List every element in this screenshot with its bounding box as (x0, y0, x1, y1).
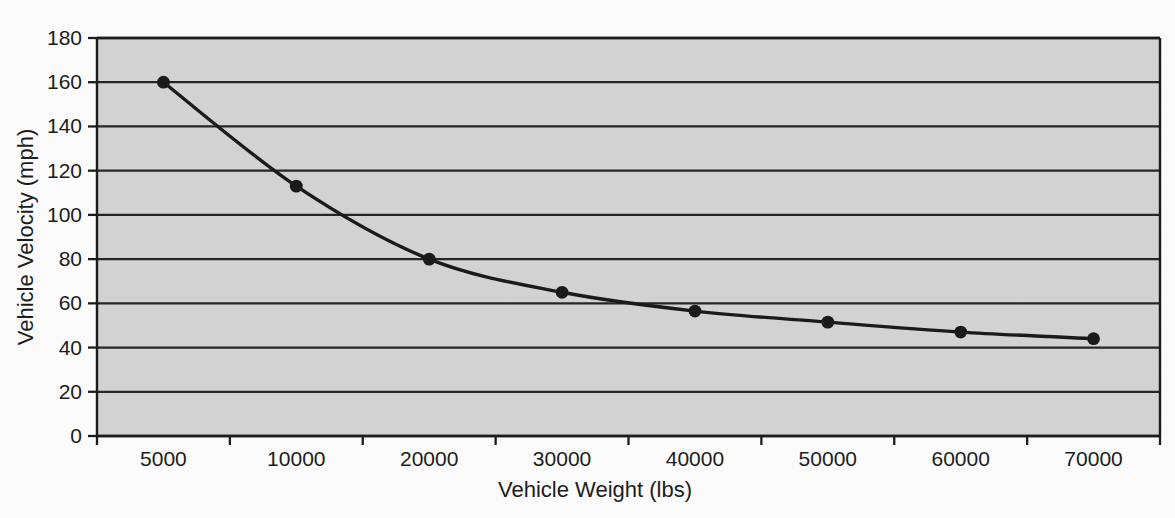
x-axis-tick-label: 60000 (931, 447, 989, 470)
chart-figure: 020406080100120140160180 500010000200003… (0, 0, 1175, 518)
data-point-marker (821, 316, 834, 329)
y-axis-tick-label: 40 (59, 336, 82, 359)
data-point-marker (1087, 332, 1100, 345)
y-axis-tick-labels: 020406080100120140160180 (47, 26, 82, 447)
x-axis-ticks (97, 436, 1160, 445)
line-chart: 020406080100120140160180 500010000200003… (0, 0, 1175, 518)
y-axis-tick-label: 60 (59, 291, 82, 314)
x-axis-tick-label: 30000 (533, 447, 591, 470)
y-axis-tick-label: 100 (47, 203, 82, 226)
data-point-marker (423, 253, 436, 266)
y-axis-tick-label: 80 (59, 247, 82, 270)
y-axis-tick-label: 140 (47, 114, 82, 137)
x-axis-tick-labels: 500010000200003000040000500006000070000 (140, 447, 1123, 470)
y-axis-title: Vehicle Velocity (mph) (13, 129, 38, 345)
y-axis-tick-label: 0 (70, 424, 82, 447)
y-axis-tick-label: 180 (47, 26, 82, 49)
y-axis-tick-label: 160 (47, 70, 82, 93)
plot-area-background (97, 38, 1160, 436)
data-point-marker (689, 305, 702, 318)
x-axis-tick-label: 20000 (400, 447, 458, 470)
y-axis-tick-label: 120 (47, 159, 82, 182)
data-point-marker (157, 76, 170, 89)
data-point-marker (556, 286, 569, 299)
data-point-marker (954, 326, 967, 339)
y-axis-tick-label: 20 (59, 380, 82, 403)
x-axis-tick-label: 10000 (267, 447, 325, 470)
x-axis-tick-label: 70000 (1064, 447, 1122, 470)
data-point-marker (290, 180, 303, 193)
x-axis-tick-label: 5000 (140, 447, 187, 470)
x-axis-title: Vehicle Weight (lbs) (498, 477, 692, 502)
y-axis-ticks (88, 38, 97, 436)
x-axis-tick-label: 40000 (666, 447, 724, 470)
x-axis-tick-label: 50000 (799, 447, 857, 470)
